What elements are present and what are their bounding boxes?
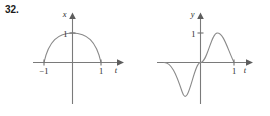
left-tick-label-neg-one: −1 [39,66,48,76]
right-tick-label-one: 1 [232,66,236,76]
right-chart-svg: 1 1 y t [135,0,270,116]
left-x-axis-label: t [115,65,118,75]
left-chart-svg: −1 1 1 x t [0,0,135,116]
left-x-axis-arrowhead [117,59,124,66]
chart-panel-right: 1 1 y t [135,0,270,116]
left-y-axis-arrowhead [69,13,76,20]
right-x-axis-arrowhead [246,59,253,66]
right-y-axis-arrowhead [197,13,204,20]
left-y-axis-label: x [62,9,67,19]
figure-root: 32. −1 1 1 x t [0,0,270,116]
left-tick-label-one: 1 [99,66,103,76]
right-tick-label-y-one: 1 [191,29,195,39]
right-sine-curve [164,33,234,96]
chart-panel-left: −1 1 1 x t [0,0,135,116]
right-x-axis-label: t [244,65,247,75]
left-tick-label-y-one: 1 [63,29,67,39]
right-y-axis-label: y [190,9,195,19]
